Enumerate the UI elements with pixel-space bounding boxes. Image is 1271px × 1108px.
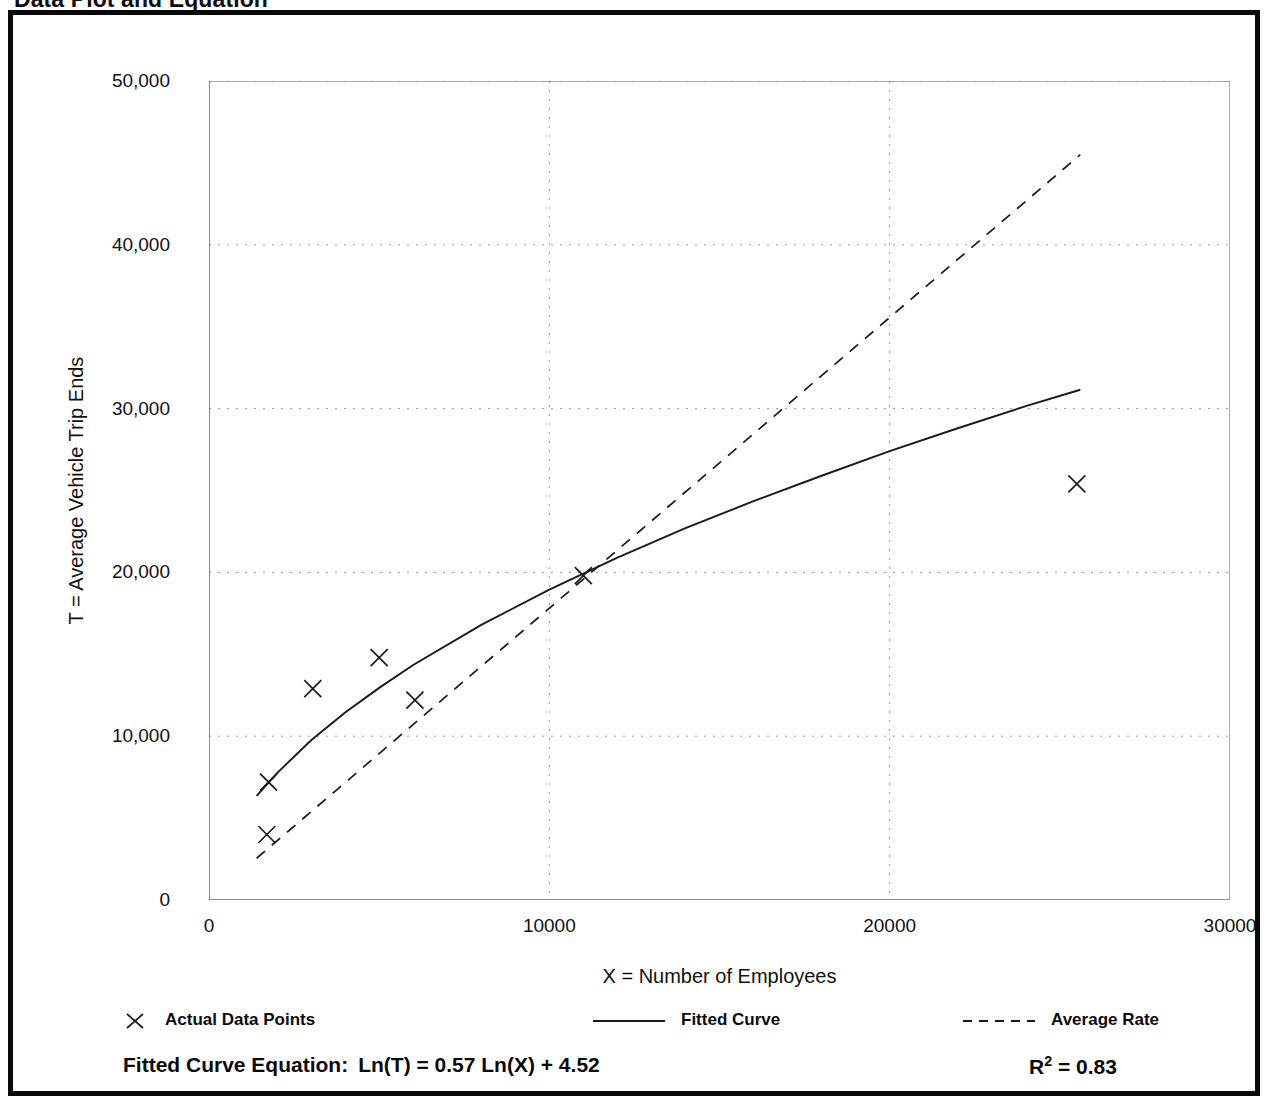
y-axis-title: T = Average Vehicle Trip Ends bbox=[61, 81, 91, 900]
dashed-line-icon bbox=[963, 1010, 1035, 1030]
axes bbox=[209, 81, 1230, 900]
data-point-marker bbox=[371, 649, 388, 666]
average-rate-path bbox=[257, 155, 1081, 859]
r-squared-annotation: R2 = 0.83 bbox=[923, 1053, 1223, 1079]
legend-label: Actual Data Points bbox=[165, 1010, 315, 1030]
y-tick-label: 30,000 bbox=[50, 398, 170, 420]
solid-line-icon bbox=[593, 1010, 665, 1030]
x-tick-label: 30000 bbox=[1160, 915, 1271, 937]
y-tick-label: 20,000 bbox=[50, 561, 170, 583]
data-point-marker bbox=[304, 680, 321, 697]
x-tick-label: 10000 bbox=[479, 915, 619, 937]
plot-area bbox=[209, 81, 1230, 900]
equation-label: Fitted Curve Equation: bbox=[123, 1053, 348, 1076]
data-point-marker bbox=[1068, 475, 1085, 492]
fitted-curve-path bbox=[257, 390, 1081, 796]
x-tick-label: 20000 bbox=[820, 915, 960, 937]
plot-svg bbox=[209, 81, 1230, 900]
figure-frame: T = Average Vehicle Trip Ends X = Number… bbox=[8, 10, 1260, 1096]
legend-label: Average Rate bbox=[1051, 1010, 1159, 1030]
y-tick-label: 0 bbox=[50, 889, 170, 911]
fitted-curve-line bbox=[257, 390, 1081, 796]
legend-entry: Fitted Curve bbox=[593, 1003, 780, 1037]
data-point-markers bbox=[258, 475, 1085, 843]
equation-row: Fitted Curve Equation:Ln(T) = 0.57 Ln(X)… bbox=[123, 1053, 1243, 1093]
y-tick-label: 50,000 bbox=[50, 70, 170, 92]
average-rate-line bbox=[257, 155, 1081, 859]
r-squared-value: = 0.83 bbox=[1058, 1055, 1117, 1078]
y-tick-label: 10,000 bbox=[50, 725, 170, 747]
legend-label: Fitted Curve bbox=[681, 1010, 780, 1030]
r-squared-exponent: 2 bbox=[1044, 1053, 1052, 1069]
legend-entry: Actual Data Points bbox=[123, 1003, 315, 1037]
x-marker-icon bbox=[123, 1010, 149, 1030]
gridlines bbox=[209, 81, 1230, 900]
x-tick-label: 0 bbox=[139, 915, 279, 937]
data-point-marker bbox=[258, 826, 275, 843]
legend-entry: Average Rate bbox=[963, 1003, 1159, 1037]
chart-legend: Actual Data PointsFitted CurveAverage Ra… bbox=[123, 1003, 1243, 1037]
data-point-marker bbox=[406, 692, 423, 709]
equation-body: Ln(T) = 0.57 Ln(X) + 4.52 bbox=[358, 1053, 600, 1076]
y-tick-label: 40,000 bbox=[50, 234, 170, 256]
data-point-marker bbox=[260, 774, 277, 791]
fitted-curve-equation: Fitted Curve Equation:Ln(T) = 0.57 Ln(X)… bbox=[123, 1053, 600, 1077]
x-axis-title: X = Number of Employees bbox=[209, 965, 1230, 988]
r-squared-symbol: R bbox=[1029, 1055, 1044, 1078]
